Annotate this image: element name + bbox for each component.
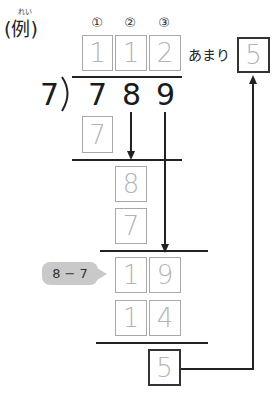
remainder-label: あまり (188, 44, 230, 64)
remainder-answer-box: 5 (237, 37, 270, 73)
second-product-box: 7 (115, 208, 147, 244)
quotient-digit-1: 1 (82, 35, 113, 71)
first-product-box: 7 (82, 116, 113, 153)
division-bracket-icon (60, 76, 74, 112)
first-difference-box: 8 (115, 166, 147, 202)
subtraction-line-3 (96, 342, 208, 344)
place-marker-2: ② (120, 15, 140, 30)
third-product-digit-2: 4 (149, 300, 181, 336)
quotient-digit-3: 2 (149, 35, 181, 71)
example-label: (例) (4, 14, 38, 41)
dividend-digit-3: 9 (156, 80, 175, 110)
final-remainder-box: 5 (148, 349, 181, 386)
divisor: 7 (40, 80, 59, 110)
subtraction-line-2 (100, 250, 208, 252)
dividend-digit-2: 8 (122, 80, 141, 110)
arrow-up-icon (249, 75, 257, 84)
bring-down-line-9 (164, 112, 166, 246)
remainder-connector-horizontal (181, 368, 254, 370)
hint-bubble-pointer (97, 268, 107, 280)
quotient-digit-2: 1 (115, 35, 147, 71)
third-product-digit-1: 1 (115, 300, 147, 336)
place-marker-1: ① (87, 15, 107, 30)
dividend-digit-1: 7 (88, 80, 107, 110)
bring-down-line-8 (130, 112, 132, 152)
remainder-connector-vertical (252, 82, 254, 370)
bring-down-digit-2: 9 (149, 257, 181, 293)
place-marker-3: ③ (154, 15, 174, 30)
subtraction-line-1 (72, 159, 182, 161)
bring-down-digit-1: 1 (115, 257, 147, 293)
hint-bubble: 8 − 7 (42, 262, 98, 285)
